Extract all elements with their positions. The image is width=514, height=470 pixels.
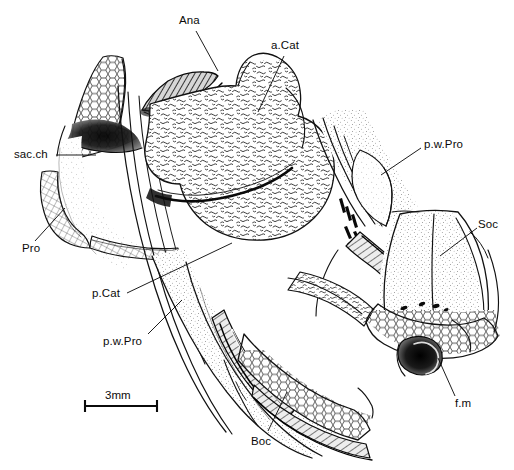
- label-p-w-pro-right: p.w.Pro: [424, 139, 463, 151]
- label-boc: Boc: [251, 436, 271, 448]
- label-p-w-pro-left: p.w.Pro: [103, 336, 142, 348]
- label-ana: Ana: [179, 15, 200, 27]
- figure-root: Anaa.Catsac.chProp.Catp.w.ProBocp.w.ProS…: [0, 0, 514, 470]
- label-p-cat: p.Cat: [92, 288, 120, 300]
- label-pro: Pro: [22, 243, 40, 255]
- label-sac-ch: sac.ch: [14, 149, 48, 161]
- scale-bar-label: 3mm: [105, 390, 131, 402]
- label-f-m: f.m: [455, 398, 471, 410]
- label-a-cat: a.Cat: [271, 40, 299, 52]
- anatomical-drawing: [0, 0, 514, 470]
- label-soc: Soc: [478, 219, 498, 231]
